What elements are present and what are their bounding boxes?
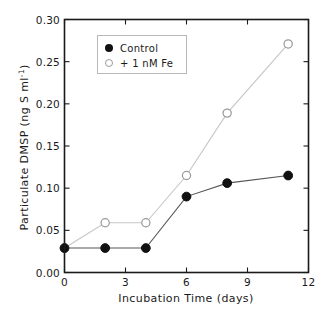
x-tick-label: 9 (233, 276, 263, 288)
data-point (141, 244, 150, 253)
open-circle-icon (105, 59, 113, 67)
x-tick-label: 0 (50, 276, 80, 288)
x-axis-title: Incubation Time (days) (64, 292, 308, 305)
legend-item-control: Control (105, 41, 158, 55)
data-point (101, 219, 109, 227)
filled-circle-icon (105, 44, 113, 52)
data-point (284, 40, 292, 48)
data-point (284, 171, 293, 180)
chart-figure: Particulate DMSP (ng S ml-1) 0.000.050.1… (0, 0, 326, 319)
x-tick-label: 6 (172, 276, 202, 288)
chart-legend: Control + 1 nM Fe (97, 35, 187, 74)
data-point (182, 171, 190, 179)
legend-item-fe: + 1 nM Fe (105, 56, 173, 70)
x-tick-label: 12 (294, 276, 324, 288)
data-point (101, 244, 110, 253)
x-tick-label: 3 (111, 276, 141, 288)
data-point (182, 192, 191, 201)
data-point (142, 219, 150, 227)
legend-label-control: Control (120, 43, 158, 54)
legend-label-fe: + 1 nM Fe (120, 58, 173, 69)
data-point (223, 179, 232, 188)
series-control (60, 171, 292, 252)
data-point (223, 109, 231, 117)
